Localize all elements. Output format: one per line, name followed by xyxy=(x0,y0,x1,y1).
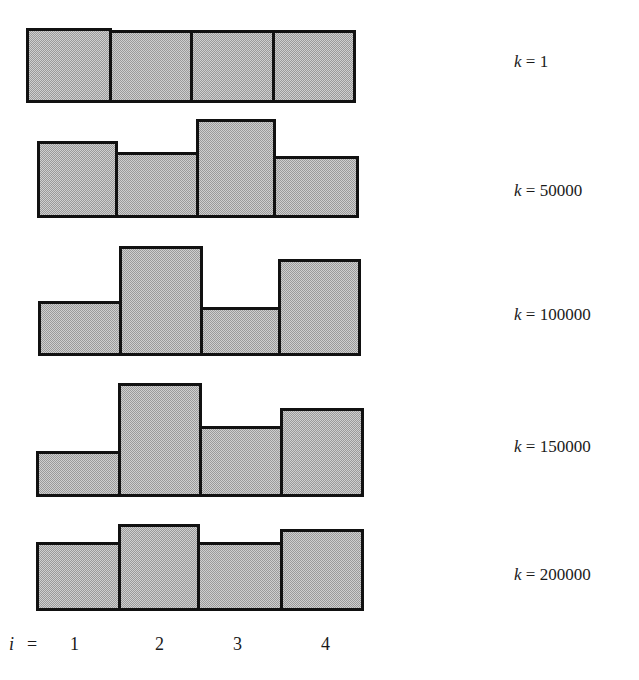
histogram-bar xyxy=(36,451,121,497)
histogram-bar xyxy=(280,408,364,497)
histogram-bar xyxy=(197,542,283,611)
histogram-bar xyxy=(200,307,281,356)
histogram-bar xyxy=(118,524,200,611)
histogram-bar xyxy=(109,30,193,103)
iteration-label: k = 150000 xyxy=(514,437,591,457)
x-tick-1: 1 xyxy=(70,634,79,655)
histogram-bar xyxy=(196,119,276,218)
histogram-bar xyxy=(280,529,364,611)
histogram-bar xyxy=(119,246,203,356)
x-axis-label: i xyxy=(9,634,14,655)
histogram-bar xyxy=(190,30,275,103)
histogram-bar xyxy=(273,156,359,218)
histogram-bar xyxy=(38,301,122,356)
histogram-bar xyxy=(26,28,112,103)
iteration-label: k = 50000 xyxy=(514,181,582,201)
histogram-bar xyxy=(278,259,361,356)
x-axis-equals: = xyxy=(27,634,37,655)
histogram-bar xyxy=(118,383,202,497)
x-tick-4: 4 xyxy=(321,634,330,655)
histogram-bar xyxy=(37,141,118,218)
histogram-bar xyxy=(199,426,283,497)
x-tick-2: 2 xyxy=(155,634,164,655)
iteration-label: k = 100000 xyxy=(514,305,591,325)
x-tick-3: 3 xyxy=(233,634,242,655)
histogram-bar xyxy=(115,152,199,218)
iteration-label: k = 200000 xyxy=(514,565,591,585)
histogram-bar xyxy=(272,30,356,103)
histogram-bar xyxy=(36,542,121,611)
iteration-label: k = 1 xyxy=(514,52,548,72)
